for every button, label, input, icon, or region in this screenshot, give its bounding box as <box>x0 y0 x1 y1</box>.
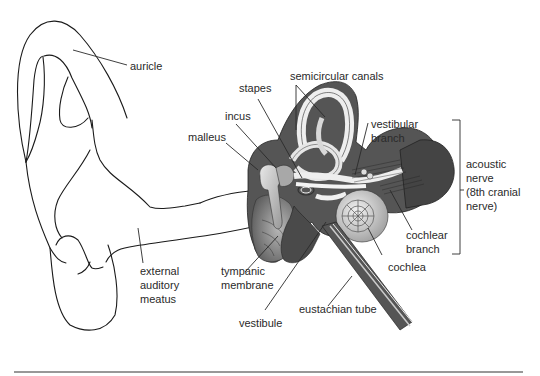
label-vestibule: vestibule <box>239 317 282 329</box>
label-acoustic-nerve-line2: nerve <box>466 172 494 184</box>
label-cochlear-branch-line1: cochlear <box>406 229 448 241</box>
label-acoustic-nerve-line4: nerve) <box>466 200 497 212</box>
label-vestibular-branch-line1: vestibular <box>371 118 418 130</box>
label-tympanic-membrane-line1: tympanic <box>221 265 266 277</box>
label-stapes: stapes <box>239 82 272 94</box>
label-tympanic-membrane-line2: membrane <box>221 279 274 291</box>
label-incus: incus <box>225 110 251 122</box>
label-acoustic-nerve-line1: acoustic <box>466 158 507 170</box>
label-cochlear-branch-line2: branch <box>406 243 440 255</box>
label-semicircular-canals: semicircular canals <box>290 70 384 82</box>
inner-ear-structures <box>247 82 454 330</box>
ear-anatomy-diagram: auricle semicircular canals stapes incus… <box>0 0 540 376</box>
label-cochlea: cochlea <box>388 261 427 273</box>
label-external-auditory-meatus-line1: external <box>140 265 179 277</box>
label-acoustic-nerve-line3: (8th cranial <box>466 186 520 198</box>
label-vestibular-branch-line2: branch <box>371 132 405 144</box>
label-external-auditory-meatus-line2: auditory <box>140 279 180 291</box>
label-external-auditory-meatus-line3: meatus <box>140 293 177 305</box>
label-eustachian-tube: eustachian tube <box>299 303 377 315</box>
label-malleus: malleus <box>188 131 226 143</box>
label-auricle: auricle <box>130 60 162 72</box>
